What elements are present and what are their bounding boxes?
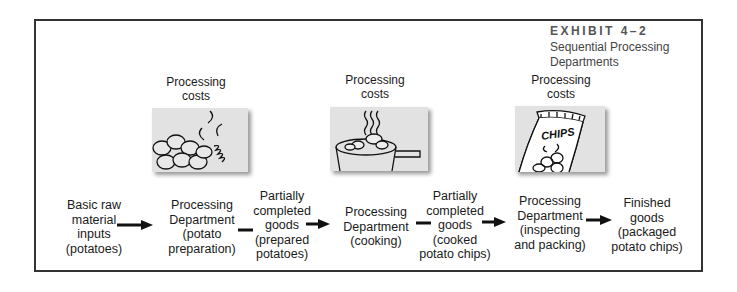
- flow-line: (potato: [155, 227, 249, 242]
- flow-line: (cooking): [334, 234, 418, 249]
- flow-line: goods: [604, 211, 690, 226]
- flow-dept-cooking: Processing Department (cooking): [334, 205, 418, 249]
- flow-line: Partially: [252, 189, 312, 204]
- flow-line: (prepared: [252, 233, 312, 248]
- connector-dash-icon: [238, 224, 254, 236]
- processing-costs-label-1: Processing costs: [151, 75, 241, 103]
- exhibit-heading: EXHIBIT 4–2 Sequential Processing Depart…: [550, 24, 690, 70]
- flow-line: Department: [507, 209, 593, 224]
- flow-line: Department: [155, 213, 249, 228]
- potatoes-icon: [152, 108, 248, 172]
- flow-line: (cooked: [415, 233, 495, 248]
- flow-line: and packing): [507, 238, 593, 253]
- chips-bag-illustration: CHIPS: [515, 106, 605, 172]
- flow-dept-inspecting-packing: Processing Department (inspecting and pa…: [507, 194, 593, 252]
- flow-line: Finished: [604, 196, 690, 211]
- potatoes-illustration: [152, 108, 248, 172]
- flow-line: potato chips): [415, 247, 495, 262]
- flow-line: (potatoes): [54, 242, 134, 257]
- cooking-pot-illustration: [330, 107, 428, 171]
- arrow-right-icon: [306, 218, 330, 230]
- flow-wip-prepared-potatoes: Partially completed goods (prepared pota…: [252, 189, 312, 262]
- flow-line: Basic raw: [54, 198, 134, 213]
- flow-line: Partially: [415, 189, 495, 204]
- arrow-right-icon: [586, 214, 612, 226]
- arrow-right-icon: [482, 216, 506, 228]
- flow-line: goods: [252, 218, 312, 233]
- processing-costs-label-3: Processing costs: [516, 73, 606, 101]
- flow-line: completed: [252, 204, 312, 219]
- flow-line: (inspecting: [507, 223, 593, 238]
- flow-line: Processing: [334, 205, 418, 220]
- flow-line: potatoes): [252, 247, 312, 262]
- flow-line: (packaged: [604, 225, 690, 240]
- flow-dept-potato-preparation: Processing Department (potato preparatio…: [155, 198, 249, 256]
- connector-dash-icon: [416, 217, 432, 229]
- flow-line: potato chips): [604, 240, 690, 255]
- arrow-right-icon: [117, 219, 153, 231]
- chips-bag-icon: CHIPS: [515, 106, 605, 172]
- flow-line: Department: [334, 220, 418, 235]
- exhibit-number: EXHIBIT 4–2: [550, 24, 690, 38]
- flow-line: Processing: [507, 194, 593, 209]
- cooking-pot-icon: [330, 107, 428, 171]
- flow-finished-goods: Finished goods (packaged potato chips): [604, 196, 690, 254]
- flow-line: preparation): [155, 242, 249, 257]
- exhibit-title: Sequential Processing Departments: [550, 40, 690, 70]
- processing-costs-label-2: Processing costs: [330, 73, 420, 101]
- flow-line: Processing: [155, 198, 249, 213]
